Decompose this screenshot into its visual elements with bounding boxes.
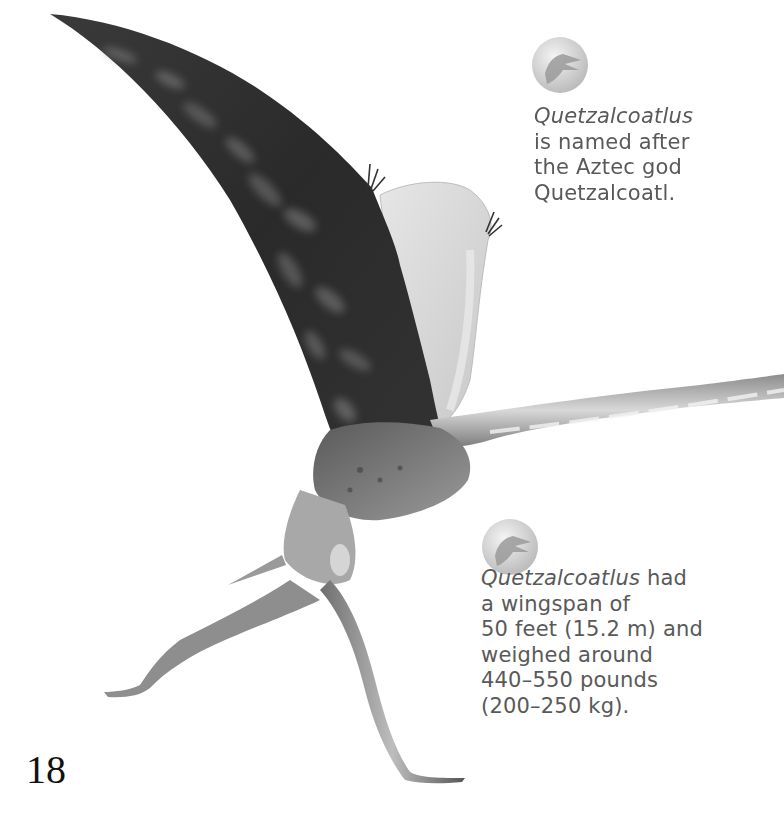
fact-line: 440–550 pounds (481, 668, 703, 694)
fact-line: Quetzalcoatl. (534, 181, 693, 207)
fact-named-after: Quetzalcoatlus is named after the Aztec … (534, 104, 693, 206)
fact-line: weighed around (481, 643, 703, 669)
fact-line: 50 feet (15.2 m) and (481, 617, 703, 643)
near-wing (50, 14, 445, 475)
fact-line: the Aztec god (534, 155, 693, 181)
species-name: Quetzalcoatlus (534, 104, 693, 128)
fact-wingspan-weight: Quetzalcoatlus had a wingspan of 50 feet… (481, 566, 703, 719)
page-number: 18 (26, 748, 66, 792)
legs (104, 490, 465, 783)
quetzalcoatlus-head-badge-icon (531, 36, 589, 94)
fact-line: Quetzalcoatlus (534, 104, 693, 130)
book-page: Quetzalcoatlus is named after the Aztec … (0, 0, 784, 814)
fact-line-text: had (640, 566, 687, 590)
neck (430, 374, 784, 446)
fact-line: Quetzalcoatlus had (481, 566, 703, 592)
fact-line: a wingspan of (481, 592, 703, 618)
species-name: Quetzalcoatlus (481, 566, 640, 590)
fact-line: (200–250 kg). (481, 694, 703, 720)
fact-line: is named after (534, 130, 693, 156)
